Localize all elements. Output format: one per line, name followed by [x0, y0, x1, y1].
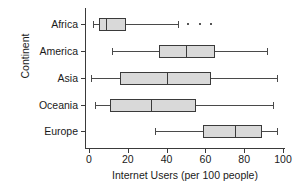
whisker-high-asia — [211, 78, 277, 79]
outlier-point — [210, 23, 212, 25]
whisker-cap-low-america — [112, 48, 113, 55]
box-oceania — [110, 99, 195, 112]
whisker-high-oceania — [196, 105, 274, 106]
whisker-cap-low-asia — [91, 75, 92, 82]
median-america — [186, 45, 187, 58]
outlier-point — [199, 23, 201, 25]
whisker-low-asia — [91, 78, 120, 79]
whisker-cap-high-oceania — [273, 102, 274, 109]
median-asia — [167, 72, 168, 85]
whisker-high-america — [215, 51, 267, 52]
whisker-cap-high-africa — [178, 21, 179, 28]
whisker-low-oceania — [95, 105, 111, 106]
box-africa — [99, 18, 126, 31]
whisker-cap-low-oceania — [95, 102, 96, 109]
boxplot-figure: Continent Internet Users (per 100 people… — [0, 0, 308, 191]
median-oceania — [151, 99, 152, 112]
whisker-cap-high-america — [267, 48, 268, 55]
whisker-cap-low-africa — [93, 21, 94, 28]
whisker-high-africa — [126, 24, 178, 25]
whisker-high-europe — [262, 131, 278, 132]
whisker-low-america — [112, 51, 159, 52]
whisker-low-europe — [155, 131, 204, 132]
boxplot-series — [0, 0, 308, 191]
outlier-point — [187, 23, 189, 25]
box-europe — [203, 125, 261, 138]
whisker-cap-low-europe — [155, 128, 156, 135]
median-europe — [235, 125, 236, 138]
median-africa — [106, 18, 107, 31]
whisker-cap-high-europe — [277, 128, 278, 135]
whisker-cap-high-asia — [277, 75, 278, 82]
